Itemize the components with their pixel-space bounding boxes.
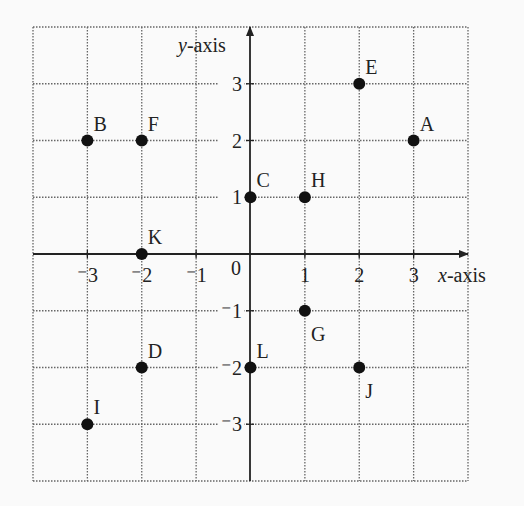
origin-label: 0: [231, 257, 241, 279]
point-label: C: [257, 169, 270, 191]
point-marker: [81, 135, 93, 147]
point-marker: [245, 362, 257, 374]
y-tick-label: ⁻2: [221, 357, 242, 379]
point-label: L: [257, 340, 269, 362]
point-l: L: [245, 340, 269, 374]
data-points: ABCDEFGHIJKL: [81, 56, 434, 431]
point-label: B: [93, 113, 106, 135]
y-tick-label: 2: [232, 130, 242, 152]
point-marker: [299, 305, 311, 317]
x-tick-label: 2: [354, 264, 364, 286]
point-c: C: [245, 169, 270, 203]
point-label: G: [311, 323, 325, 345]
point-label: J: [365, 380, 373, 402]
y-tick-label: 1: [232, 186, 242, 208]
point-marker: [353, 78, 365, 90]
point-marker: [136, 248, 148, 260]
y-tick-label: 3: [232, 73, 242, 95]
y-tick-label: ⁻1: [221, 300, 242, 322]
point-marker: [245, 191, 257, 203]
point-marker: [136, 135, 148, 147]
x-tick-label: ⁻2: [131, 264, 152, 286]
point-marker: [136, 362, 148, 374]
point-label: E: [365, 56, 377, 78]
x-axis-label: x-axis: [437, 264, 486, 286]
x-tick-label: 1: [300, 264, 310, 286]
point-marker: [81, 418, 93, 430]
point-e: E: [353, 56, 377, 90]
point-label: H: [311, 169, 325, 191]
point-i: I: [81, 396, 100, 430]
point-label: A: [420, 113, 435, 135]
point-label: D: [148, 340, 162, 362]
point-label: F: [148, 113, 159, 135]
y-axis-label: y-axis: [176, 34, 226, 57]
x-tick-label: ⁻3: [77, 264, 98, 286]
point-f: F: [136, 113, 159, 147]
point-label: I: [93, 396, 100, 418]
point-label: K: [148, 226, 163, 248]
point-b: B: [81, 113, 106, 147]
point-d: D: [136, 340, 162, 374]
x-tick-label: 3: [409, 264, 419, 286]
coordinate-plane: ⁻3⁻2⁻1123321⁻1⁻2⁻3 x-axis y-axis 0 ABCDE…: [0, 0, 524, 506]
point-marker: [299, 191, 311, 203]
y-tick-label: ⁻3: [221, 413, 242, 435]
x-tick-label: ⁻1: [186, 264, 207, 286]
point-h: H: [299, 169, 325, 203]
point-marker: [353, 362, 365, 374]
point-marker: [408, 135, 420, 147]
point-a: A: [408, 113, 435, 147]
